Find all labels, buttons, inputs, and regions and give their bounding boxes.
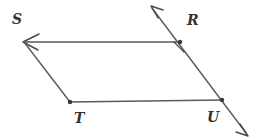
arrowhead-ray-lower	[236, 124, 248, 136]
vertex-dot-r	[178, 40, 182, 44]
segment-st	[24, 42, 70, 102]
ray-through-r-and-u	[152, 8, 246, 133]
vertex-label-s: S	[12, 12, 22, 26]
geometry-figure: S R T U	[0, 0, 256, 140]
vertex-label-u: U	[207, 110, 219, 124]
arrowhead-ray-upper	[151, 6, 163, 18]
segment-tu	[70, 100, 222, 102]
vertex-label-t: T	[74, 111, 84, 125]
vertex-label-r: R	[187, 13, 199, 27]
vertex-dot-t	[68, 100, 72, 104]
vertex-dot-u	[220, 98, 224, 102]
